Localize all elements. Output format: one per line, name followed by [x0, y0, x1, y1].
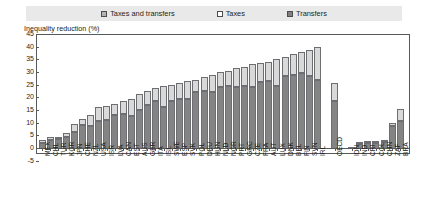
- x-tick-mark: [293, 148, 294, 151]
- bar-segment-taxes: [144, 91, 151, 105]
- bar-segment-taxes: [257, 63, 264, 82]
- bar-ita: [152, 88, 159, 148]
- bar-fin: [298, 52, 305, 148]
- y-tick-mark: [36, 59, 39, 60]
- x-tick-mark: [368, 148, 369, 151]
- x-tick-mark: [400, 148, 401, 151]
- bar-svk: [184, 81, 191, 148]
- x-tick-mark: [147, 148, 148, 151]
- x-tick-mark: [228, 148, 229, 151]
- y-tick-mark: [36, 47, 39, 48]
- bar-segment-taxes: [290, 54, 297, 74]
- bar-segment-transfers: [257, 82, 264, 148]
- chart-legend: Taxes and transfers Taxes Transfers: [26, 6, 402, 21]
- x-tick-mark: [220, 148, 221, 151]
- x-tick-mark: [384, 148, 385, 151]
- bar-segment-taxes: [184, 81, 191, 99]
- bar-segment-transfers: [249, 87, 256, 148]
- chart-figure: Taxes and transfers Taxes Transfers Ineq…: [0, 0, 428, 206]
- bar-deu: [201, 77, 208, 148]
- bar-can: [120, 101, 127, 148]
- x-tick-mark: [123, 148, 124, 151]
- x-tick-mark: [352, 148, 353, 151]
- y-tick-label: 40: [26, 43, 34, 50]
- y-tick-label: 0: [30, 144, 34, 151]
- bar-segment-transfers: [282, 76, 289, 148]
- bar-segment-taxes: [209, 75, 216, 93]
- y-tick-label: 30: [26, 68, 34, 75]
- bar-segment-transfers: [265, 81, 272, 148]
- x-tick-mark: [392, 148, 393, 151]
- bar-segment-taxes: [298, 52, 305, 74]
- bar-segment-transfers: [160, 107, 167, 148]
- bar-segment-taxes: [192, 80, 199, 93]
- bar-segment-transfers: [298, 73, 305, 148]
- bar-segment-taxes: [265, 62, 272, 81]
- bar-segment-taxes: [103, 106, 110, 120]
- bar-segment-taxes: [111, 104, 118, 115]
- x-tick-mark: [83, 148, 84, 151]
- y-tick-label: 45: [26, 30, 34, 37]
- square-swatch-icon: [217, 11, 223, 17]
- x-tick-mark: [58, 148, 59, 151]
- y-tick-mark: [36, 148, 39, 149]
- legend-label: Taxes: [226, 10, 245, 17]
- x-tick-mark: [66, 148, 67, 151]
- bar-segment-taxes: [168, 85, 175, 101]
- x-tick-mark: [204, 148, 205, 151]
- bar-segment-taxes: [217, 72, 224, 87]
- bars-layer: [36, 34, 410, 154]
- x-tick-mark: [376, 148, 377, 151]
- x-tick-label: IRL: [320, 146, 327, 156]
- bar-pol: [192, 80, 199, 148]
- y-tick-label: 15: [26, 106, 34, 113]
- x-tick-mark: [309, 148, 310, 151]
- y-axis-ticks: -5051015202530354045: [0, 0, 34, 206]
- x-tick-mark: [335, 148, 336, 151]
- x-tick-mark: [99, 148, 100, 151]
- bar-isl: [160, 86, 167, 148]
- y-tick-mark: [36, 123, 39, 124]
- y-tick-mark: [36, 97, 39, 98]
- legend-item-taxes-and-transfers: Taxes and transfers: [101, 10, 175, 17]
- x-tick-mark: [261, 148, 262, 151]
- x-tick-mark: [164, 148, 165, 151]
- y-tick-mark: [36, 34, 39, 35]
- bar-dnk: [282, 57, 289, 148]
- bar-segment-transfers: [184, 99, 191, 148]
- x-tick-mark: [360, 148, 361, 151]
- x-tick-mark: [131, 148, 132, 151]
- bar-nld: [217, 72, 224, 148]
- bar-segment-taxes: [314, 47, 321, 80]
- bar-lux: [273, 59, 280, 148]
- bar-grc: [241, 67, 248, 148]
- bar-segment-taxes: [306, 50, 313, 75]
- bar-segment-taxes: [120, 101, 127, 114]
- y-tick-mark: [36, 85, 39, 86]
- x-tick-label: OECD: [337, 137, 344, 156]
- x-tick-mark: [253, 148, 254, 151]
- y-tick-label: -5: [28, 157, 34, 164]
- bar-fra: [257, 63, 264, 148]
- bar-segment-taxes: [176, 83, 183, 98]
- bar-segment-transfers: [201, 91, 208, 148]
- x-tick-mark: [236, 148, 237, 151]
- bar-gbr: [144, 91, 151, 148]
- legend-item-taxes: Taxes: [217, 10, 245, 17]
- bar-aus: [136, 94, 143, 148]
- bar-bel: [290, 54, 297, 148]
- y-tick-mark: [36, 161, 39, 162]
- y-tick-label: 25: [26, 81, 34, 88]
- x-axis-labels: MEXCHLTURKORJPNCHENZLUSAISRLVACANESTAUSG…: [36, 156, 410, 206]
- x-tick-mark: [196, 148, 197, 151]
- x-tick-mark: [91, 148, 92, 151]
- y-tick-label: 5: [30, 131, 34, 138]
- bar-segment-taxes: [128, 99, 135, 117]
- legend-item-transfers: Transfers: [287, 10, 327, 17]
- bar-segment-transfers: [241, 86, 248, 148]
- bar-irl: [314, 47, 321, 148]
- y-tick-mark: [36, 135, 39, 136]
- bar-segment-transfers: [217, 87, 224, 148]
- x-tick-mark: [285, 148, 286, 151]
- legend-label: Taxes and transfers: [110, 10, 175, 17]
